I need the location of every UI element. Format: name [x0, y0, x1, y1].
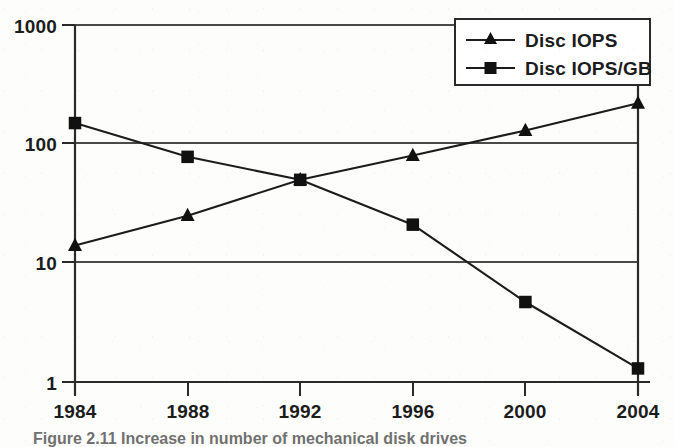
x-tick-label-1988: 1988 [166, 401, 209, 422]
data-point-square-marker [632, 362, 645, 375]
chart-legend: Disc IOPS Disc IOPS/GB [455, 19, 652, 85]
y-tick-label-10: 10 [35, 253, 57, 274]
y-tick-label-100: 100 [25, 134, 57, 155]
square-icon [485, 62, 497, 74]
data-point-square-marker [181, 151, 194, 164]
series-disc-iops [68, 95, 645, 251]
data-point-square-marker [69, 117, 82, 129]
figure-root: 1000 100 10 1 1984 1988 1992 1996 2000 2… [0, 0, 675, 447]
data-point-triangle-marker [631, 95, 645, 108]
data-series-layer [68, 95, 645, 374]
y-axis-tick-labels: 1000 100 10 1 [14, 16, 57, 394]
x-tick-label-1992: 1992 [278, 401, 321, 422]
x-axis-ticks [75, 382, 638, 396]
legend-label-disc-iops: Disc IOPS [525, 30, 618, 51]
y-tick-label-1: 1 [46, 373, 57, 394]
line-chart: 1000 100 10 1 1984 1988 1992 1996 2000 2… [0, 0, 675, 447]
x-tick-label-1984: 1984 [53, 401, 96, 422]
data-point-square-marker [407, 218, 420, 231]
y-tick-label-1000: 1000 [14, 16, 57, 37]
x-tick-label-1996: 1996 [391, 401, 434, 422]
figure-caption: Figure 2.11 Increase in number of mechan… [33, 430, 467, 447]
x-tick-label-2004: 2004 [616, 401, 659, 422]
series-line [75, 123, 638, 368]
legend-label-disc-iops-per-gb: Disc IOPS/GB [525, 58, 652, 79]
figure-caption-clip: Figure 2.11 Increase in number of mechan… [0, 430, 675, 447]
data-point-square-marker [519, 296, 532, 309]
x-axis-tick-labels: 1984 1988 1992 1996 2000 2004 [53, 401, 659, 422]
x-tick-label-2000: 2000 [503, 401, 546, 422]
y-axis-ticks [62, 25, 75, 382]
series-disc-iops-gb [69, 117, 645, 375]
series-line [75, 103, 638, 245]
data-point-square-marker [294, 174, 307, 187]
